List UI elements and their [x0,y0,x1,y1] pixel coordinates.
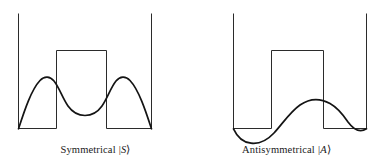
caption-antisymmetric: Antisymmetrical|A⟩ [191,143,382,155]
caption-symmetric: Symmetrical|S⟩ [0,143,191,155]
panel-symmetric [19,14,152,129]
caption-antisymmetric-label: Antisymmetrical [242,144,315,155]
ket-letter-antisymmetric: A [320,144,327,155]
ket-close-symmetric: ⟩ [126,144,130,155]
symmetric-wavefunction-curve [19,77,152,129]
potential-well-antisymmetric [234,14,367,129]
caption-symmetric-label: Symmetrical [60,144,115,155]
double-well-figure: Symmetrical|S⟩ Antisymmetrical|A⟩ [0,0,382,168]
antisymmetric-wavefunction-curve [234,100,367,144]
panel-antisymmetric [234,14,367,143]
ket-close-antisymmetric: ⟩ [327,144,331,155]
potential-well-symmetric [19,14,152,129]
